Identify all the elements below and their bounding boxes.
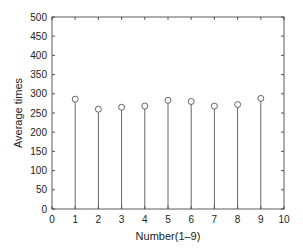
y-tick-label: 350 <box>30 69 47 80</box>
x-tick-label: 6 <box>188 214 194 225</box>
x-axis-label: Number(1–9) <box>136 230 201 242</box>
y-tick-label: 450 <box>30 31 47 42</box>
stem-chart: 050100150200250300350400450500 012345678… <box>0 0 303 248</box>
y-tick-label: 400 <box>30 50 47 61</box>
x-tick-label: 3 <box>119 214 125 225</box>
x-tick-label: 5 <box>165 214 171 225</box>
x-tick-label: 2 <box>96 214 102 225</box>
y-tick-label: 150 <box>30 146 47 157</box>
y-tick-label: 200 <box>30 127 47 138</box>
x-tick-label: 10 <box>278 214 290 225</box>
y-tick-label: 250 <box>30 108 47 119</box>
y-tick-label: 500 <box>30 12 47 23</box>
x-tick-label: 7 <box>212 214 218 225</box>
y-tick-label: 300 <box>30 88 47 99</box>
x-tick-label: 4 <box>142 214 148 225</box>
y-tick-label: 50 <box>36 184 48 195</box>
y-tick-label: 100 <box>30 165 47 176</box>
x-tick-label: 9 <box>258 214 264 225</box>
y-axis-label: Average times <box>12 77 24 148</box>
x-tick-label: 0 <box>49 214 55 225</box>
x-tick-label: 8 <box>235 214 241 225</box>
y-tick-label: 0 <box>41 204 47 215</box>
x-tick-label: 1 <box>72 214 78 225</box>
